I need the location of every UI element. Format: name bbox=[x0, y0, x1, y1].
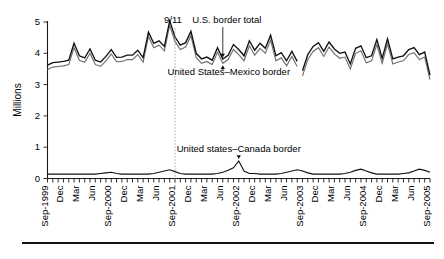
x-tick-label-mar: Mar bbox=[70, 186, 81, 202]
x-tick-label-sep-1999: Sep-1999 bbox=[39, 186, 50, 227]
x-tick-label-sep-2005: Sep-2005 bbox=[421, 186, 432, 227]
annotation-label-us-canada-border: United states–Canada border bbox=[177, 143, 301, 154]
chart-figure: 0 1 2 3 4 5 Millions Sep-1999DecMarJunSe… bbox=[0, 0, 444, 259]
y-tick-label-3: 3 bbox=[35, 79, 40, 90]
border-crossings-line-chart: 0 1 2 3 4 5 Millions Sep-1999DecMarJunSe… bbox=[0, 0, 444, 259]
x-tick-label-jun: Jun bbox=[405, 186, 416, 201]
annotation-label-us-mexico-border: United States–Mexico border bbox=[168, 66, 291, 77]
x-tick-label-jun: Jun bbox=[150, 186, 161, 201]
x-tick-label-mar: Mar bbox=[325, 186, 336, 202]
y-tick-label-4: 4 bbox=[35, 47, 40, 58]
series-line-us-canada-border bbox=[48, 161, 431, 174]
y-tick-label-0: 0 bbox=[35, 173, 40, 184]
x-tick-label-sep-2002: Sep-2002 bbox=[230, 186, 241, 227]
x-tick-label-dec: Dec bbox=[373, 185, 384, 202]
y-axis: 0 1 2 3 4 5 Millions bbox=[12, 16, 48, 184]
x-tick-label-sep-2001: Sep-2001 bbox=[166, 186, 177, 227]
annotation-label-us-border-total: U.S. border total bbox=[192, 14, 261, 25]
x-tick-label-mar: Mar bbox=[198, 186, 209, 202]
x-tick-label-jun: Jun bbox=[86, 186, 97, 201]
x-tick-label-sep-2003: Sep-2003 bbox=[294, 186, 305, 227]
y-axis-title: Millions bbox=[12, 83, 23, 116]
x-tick-label-sep-2000: Sep-2000 bbox=[102, 186, 113, 227]
x-tick-label-mar: Mar bbox=[134, 186, 145, 202]
x-tick-label-dec: Dec bbox=[182, 185, 193, 202]
x-tick-label-jun: Jun bbox=[341, 186, 352, 201]
x-tick-label-dec: Dec bbox=[309, 185, 320, 202]
x-tick-label-group: Sep-1999DecMarJunSep-2000DecMarJunSep-20… bbox=[39, 185, 433, 226]
x-axis: Sep-1999DecMarJunSep-2000DecMarJunSep-20… bbox=[39, 179, 433, 227]
y-tick-label-2: 2 bbox=[35, 110, 40, 121]
x-tick-label-dec: Dec bbox=[54, 185, 65, 202]
x-tick-label-sep-2004: Sep-2004 bbox=[357, 186, 368, 227]
event-label-9-11: 9/11 bbox=[164, 14, 182, 25]
annotations-group: 9/11 U.S. border total United States–Mex… bbox=[164, 14, 301, 186]
x-tick-label-jun: Jun bbox=[214, 186, 225, 201]
x-tick-label-mar: Mar bbox=[389, 186, 400, 202]
x-tick-label-jun: Jun bbox=[278, 186, 289, 201]
annotation-arrowhead-us-canada-border bbox=[237, 155, 241, 159]
x-tick-label-mar: Mar bbox=[262, 186, 273, 202]
y-tick-label-5: 5 bbox=[35, 16, 40, 27]
x-tick-label-dec: Dec bbox=[118, 185, 129, 202]
x-tick-marks bbox=[48, 179, 431, 183]
y-tick-label-1: 1 bbox=[35, 141, 40, 152]
x-tick-label-dec: Dec bbox=[246, 185, 257, 202]
